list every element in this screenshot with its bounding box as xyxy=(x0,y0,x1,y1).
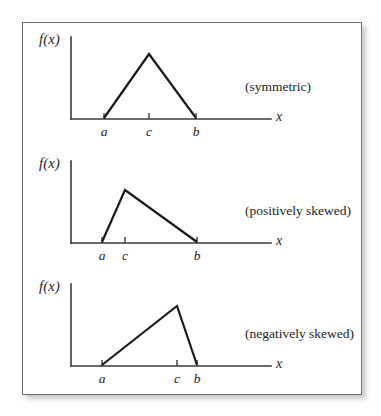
panel-symmetric: f(x) x a c b (symmetric) xyxy=(23,25,363,149)
caption-positively-skewed: (positively skewed) xyxy=(245,203,351,219)
triangular-density-curve xyxy=(102,190,197,242)
tick-label-b: b xyxy=(190,248,204,264)
triangular-density-curve xyxy=(102,306,197,365)
caption-negatively-skewed: (negatively skewed) xyxy=(245,326,354,342)
panel-positively-skewed: f(x) x a c b (positively skewed) xyxy=(23,149,363,273)
tick-label-b: b xyxy=(189,124,203,140)
tick-label-a: a xyxy=(95,248,109,264)
x-axis-label: x xyxy=(276,109,282,125)
tick-label-c: c xyxy=(170,371,184,387)
y-axis-label: f(x) xyxy=(39,155,60,172)
tick-label-c: c xyxy=(142,124,156,140)
y-axis-label: f(x) xyxy=(39,31,60,48)
tick-label-a: a xyxy=(95,371,109,387)
figure-frame: f(x) x a c b (symmetric) f(x) x a c b (p… xyxy=(22,22,362,395)
tick-label-b: b xyxy=(190,371,204,387)
tick-label-a: a xyxy=(97,124,111,140)
y-axis-label: f(x) xyxy=(39,278,60,295)
x-axis-label: x xyxy=(276,233,282,249)
caption-symmetric: (symmetric) xyxy=(245,79,311,95)
x-axis-label: x xyxy=(276,356,282,372)
tick-label-c: c xyxy=(118,248,132,264)
triangular-density-curve xyxy=(104,54,196,118)
panel-negatively-skewed: f(x) x a c b (negatively skewed) xyxy=(23,272,363,396)
